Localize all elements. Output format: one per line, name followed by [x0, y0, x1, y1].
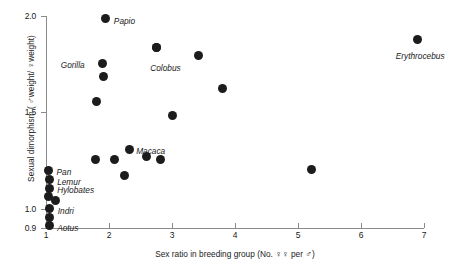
x-tick-label-6: 6	[352, 231, 370, 240]
data-point	[51, 196, 60, 205]
data-point	[120, 171, 129, 180]
y-tick-1.5	[41, 112, 46, 113]
x-tick-5	[298, 223, 299, 228]
data-point	[142, 152, 151, 161]
data-point-lemur	[45, 175, 54, 184]
x-tick-label-5: 5	[289, 231, 307, 240]
point-label-erythrocebus: Erythrocebus	[396, 52, 445, 60]
x-tick-label-1: 1	[37, 231, 55, 240]
data-point	[168, 111, 177, 120]
data-point-pan	[44, 166, 53, 175]
x-tick-7	[424, 223, 425, 228]
point-label-colobus: Colobus	[150, 64, 180, 72]
data-point-indri	[45, 204, 54, 213]
scatter-plot-figure: 0.91.01.52.0 1234567 Sexual dimorphism (…	[0, 0, 457, 275]
x-tick-3	[172, 223, 173, 228]
x-tick-label-3: 3	[163, 231, 181, 240]
data-point-macaca	[125, 145, 134, 154]
data-point	[110, 155, 119, 164]
data-point-erythrocebus	[413, 35, 422, 44]
point-label-gorilla: Gorilla	[61, 61, 85, 69]
data-point-papio	[101, 14, 110, 23]
x-axis-title: Sex ratio in breeding group (No. ♀♀ per …	[46, 250, 424, 259]
y-tick-label-2.0: 2.0	[10, 12, 36, 21]
data-point	[307, 165, 316, 174]
point-label-hylobates: Hylobates	[57, 186, 94, 194]
data-point	[92, 97, 101, 106]
data-point	[156, 155, 165, 164]
point-label-papio: Papio	[114, 17, 135, 25]
x-tick-6	[361, 223, 362, 228]
data-point	[91, 155, 100, 164]
data-point-gorilla	[98, 59, 107, 68]
x-tick-label-2: 2	[100, 231, 118, 240]
point-label-indri: Indri	[58, 207, 74, 215]
data-point-aotus	[45, 221, 54, 230]
data-point	[99, 72, 108, 81]
y-tick-label-0.9: 0.9	[10, 224, 36, 233]
data-point	[218, 84, 227, 93]
x-axis-line	[46, 228, 424, 229]
data-point	[194, 51, 203, 60]
x-tick-2	[109, 223, 110, 228]
point-label-aotus: Aotus	[57, 224, 78, 232]
data-point-colobus	[152, 43, 161, 52]
point-label-pan: Pan	[57, 168, 72, 176]
y-tick-label-1.0: 1.0	[10, 205, 36, 214]
y-tick-2.0	[41, 16, 46, 17]
y-axis-title: Sexual dimorphism ( ♂weight/ ♀weight)	[27, 24, 36, 194]
x-tick-label-7: 7	[415, 231, 433, 240]
x-tick-4	[235, 223, 236, 228]
x-tick-label-4: 4	[226, 231, 244, 240]
